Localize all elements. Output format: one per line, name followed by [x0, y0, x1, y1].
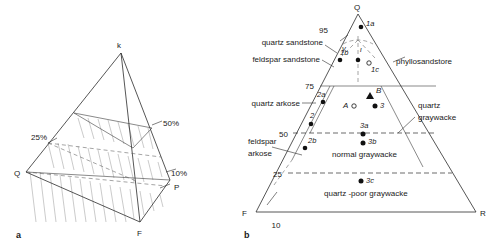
section-10-dash	[26, 172, 166, 186]
field-feldspar-arkose-1: feldspar	[248, 137, 277, 146]
point-label-3b: 3b	[368, 137, 376, 146]
field-quartz-graywacke-2: graywacke	[418, 113, 457, 122]
marker-1b	[338, 58, 343, 63]
field-quartz-graywacke-1: quartz	[418, 101, 440, 110]
ternary-vertex-Q: Q	[354, 3, 360, 12]
point-label-2: 2	[309, 111, 315, 120]
panel-tag-b: b	[244, 230, 250, 240]
point-label-B: B	[376, 86, 382, 95]
tick-75: 75	[305, 82, 314, 91]
marker-2b	[303, 146, 308, 151]
point-label-3a: 3	[380, 101, 385, 110]
vertex-label-P: P	[174, 183, 179, 192]
marker-3	[361, 132, 366, 137]
vertex-label-Q: Q	[14, 169, 20, 178]
panel-a-tetrahedron: k Q F P 50% 25% 10% a	[0, 0, 244, 244]
hatch-band-upper	[78, 118, 153, 149]
marker-B	[366, 92, 374, 99]
ternary-vertex-F: F	[242, 209, 247, 218]
vertex-label-F: F	[137, 229, 142, 238]
field-quartz-arkose: quartz arkose	[252, 99, 301, 108]
leader-quartz-sandstone	[325, 45, 337, 53]
point-label-1a: 1a	[366, 19, 374, 28]
percent-label-10: 10%	[171, 169, 187, 178]
tetrahedron-svg: k Q F P 50% 25% 10% a	[0, 0, 244, 244]
field-quartz-poor-graywacke: quartz -poor graywacke	[324, 189, 408, 198]
marker-3b	[361, 141, 366, 146]
field-feldspar-arkose-2: arkose	[248, 149, 273, 158]
section-50-left	[74, 113, 133, 148]
edge-Q-to-P	[26, 172, 170, 180]
panel-b-ternary: Q F R 95 75 50 25 10 quartz sandstone fe…	[230, 0, 489, 244]
marker-3c	[359, 179, 364, 184]
field-feldspar-sandstone: feldspar sandstone	[252, 55, 320, 64]
point-label-3: 3a	[360, 121, 368, 130]
section-50-top	[74, 113, 152, 128]
hatch-band-bottom	[30, 172, 163, 222]
tick-25: 25	[273, 170, 282, 179]
percent-label-25: 25%	[31, 133, 47, 142]
ternary-vertex-R: R	[480, 209, 486, 218]
point-label-2a: 2a	[316, 90, 325, 99]
section-25-dash	[48, 143, 161, 157]
field-phyllosandstone: phyllosandstore	[396, 57, 453, 66]
figure-container: k Q F P 50% 25% 10% a	[0, 0, 489, 244]
field-normal-graywacke: normal graywacke	[332, 150, 397, 159]
marker-2a	[321, 100, 326, 105]
point-label-A: A	[342, 101, 348, 110]
vertex-label-k: k	[117, 41, 122, 50]
leader-10	[267, 192, 277, 205]
ternary-svg: Q F R 95 75 50 25 10 quartz sandstone fe…	[230, 0, 489, 244]
leader-50	[152, 121, 162, 125]
panel-tag-a: a	[16, 230, 22, 240]
field-quartz-sandstone: quartz sandstone	[262, 38, 324, 47]
tick-50: 50	[279, 130, 288, 139]
marker-2	[309, 122, 314, 127]
leader-feldspar-arkose	[272, 147, 302, 155]
marker-1a	[359, 25, 364, 30]
section-50-right	[133, 128, 152, 148]
point-label-3c: 3c	[366, 176, 374, 185]
leader-quartz-graywacke	[398, 117, 415, 133]
leader-95	[340, 35, 348, 41]
tick-10: 10	[272, 221, 281, 230]
tick-95: 95	[319, 26, 328, 35]
point-label-1c: 1c	[371, 65, 379, 74]
edge-F-to-P	[140, 180, 170, 222]
edge-apex-to-Q	[26, 53, 121, 172]
percent-label-50: 50%	[163, 119, 179, 128]
marker-A	[352, 104, 356, 108]
point-label-2b: 2b	[307, 136, 316, 145]
point-label-iota: ι	[360, 45, 362, 54]
marker-iota	[356, 58, 361, 63]
marker-3a	[373, 104, 378, 109]
